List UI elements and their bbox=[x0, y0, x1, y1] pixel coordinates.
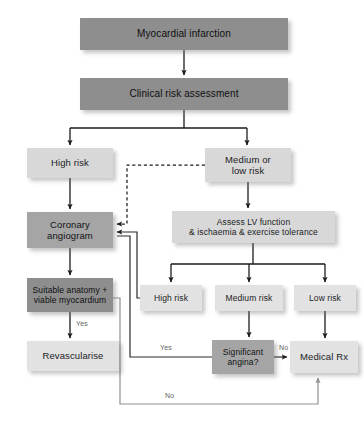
node-high-risk-assessed[interactable]: High risk bbox=[140, 285, 202, 311]
node-label: Significantangina? bbox=[212, 347, 274, 367]
node-clinical-risk-assessment[interactable]: Clinical risk assessment bbox=[80, 78, 288, 110]
node-label: Coronaryangiogram bbox=[27, 219, 113, 241]
node-coronary-angiogram[interactable]: Coronaryangiogram bbox=[27, 212, 113, 248]
node-label: Medical Rx bbox=[290, 351, 358, 362]
node-label: High risk bbox=[27, 157, 113, 168]
node-suitable-anatomy-viable-myocardium[interactable]: Suitable anatomy +viable myocardium bbox=[27, 278, 113, 312]
node-label: Myocardial infarction bbox=[80, 28, 288, 40]
node-label: Assess LV function& ischaemia & exercise… bbox=[172, 217, 335, 237]
edge-label-no-bottom-loop: No bbox=[165, 392, 174, 399]
node-revascularise[interactable]: Revascularise bbox=[27, 341, 119, 371]
node-assess-lv-function[interactable]: Assess LV function& ischaemia & exercise… bbox=[172, 211, 335, 243]
node-myocardial-infarction[interactable]: Myocardial infarction bbox=[80, 18, 288, 50]
node-label: Clinical risk assessment bbox=[80, 88, 288, 100]
node-label: Medium orlow risk bbox=[205, 154, 291, 176]
node-significant-angina[interactable]: Significantangina? bbox=[212, 340, 274, 374]
node-label: Low risk bbox=[294, 293, 356, 303]
node-label: Suitable anatomy +viable myocardium bbox=[27, 285, 113, 305]
node-low-risk-assessed[interactable]: Low risk bbox=[294, 285, 356, 311]
node-label: High risk bbox=[140, 293, 202, 303]
node-label: Revascularise bbox=[27, 350, 119, 361]
node-medium-risk-assessed[interactable]: Medium risk bbox=[215, 285, 283, 311]
edge-label-yes-angina: Yes bbox=[160, 344, 172, 351]
edge-label-no-angina: No bbox=[279, 344, 288, 351]
flowchart-canvas: Myocardial infarction Clinical risk asse… bbox=[0, 0, 364, 428]
edge-highrisk2-to-angiogram bbox=[117, 232, 140, 298]
edge-assess-split bbox=[171, 243, 325, 264]
edge-clinical-split bbox=[70, 110, 247, 128]
edge-label-yes-revascularise: Yes bbox=[76, 320, 88, 327]
node-high-risk-clinical[interactable]: High risk bbox=[27, 148, 113, 178]
node-medical-rx[interactable]: Medical Rx bbox=[290, 341, 358, 373]
node-medium-or-low-risk[interactable]: Medium orlow risk bbox=[205, 148, 291, 182]
node-label: Medium risk bbox=[215, 293, 283, 303]
